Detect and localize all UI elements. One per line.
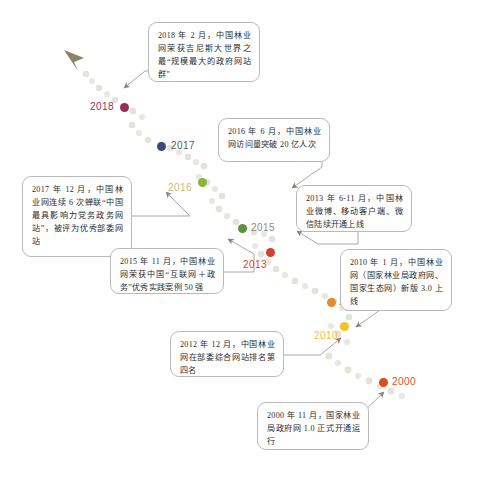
year-label-2017: 2017 (171, 140, 195, 151)
node-dot-2017[interactable] (157, 142, 166, 151)
callout-2015[interactable]: 2015 年 11 月，中国林业网荣获中国“互联网＋政务”优秀实践案例 50 强 (110, 248, 224, 294)
year-label-2016: 2016 (168, 182, 192, 193)
year-label-2015: 2015 (251, 222, 275, 233)
callout-2012[interactable]: 2012 年 12 月，中国林业网在部委综合网站排名第四名 (170, 331, 284, 377)
year-label-2018: 2018 (90, 101, 114, 112)
timeline-infographic: 2018 2017 2016 2015 2013 2012 2010 2000 … (0, 0, 492, 486)
node-dot-2015[interactable] (238, 224, 247, 233)
year-label-2000: 2000 (392, 376, 416, 387)
timeline-start-arrow-icon (64, 50, 84, 71)
year-label-2010: 2010 (314, 330, 338, 341)
node-dot-2012[interactable] (327, 298, 336, 307)
year-label-2013: 2013 (243, 259, 267, 270)
connector-2013 (297, 230, 358, 244)
callout-2016[interactable]: 2016 年 6 月，中国林业网访问量突破 20 亿人次 (218, 118, 330, 162)
connector-2017 (130, 192, 190, 216)
node-dot-2018[interactable] (120, 103, 129, 112)
callout-2000[interactable]: 2000 年 11 月，国家林业局政府网 1.0 正式开通运行 (257, 402, 369, 450)
node-dot-2010[interactable] (340, 322, 349, 331)
callout-2013[interactable]: 2013 年 6-11 月，中国林业微博、移动客户端、微信陆续开通上线 (296, 185, 412, 232)
callout-2010[interactable]: 2010 年 1 月，中国林业网（国家林业局政府网、国家生态网）新版 3.0 上… (340, 249, 452, 311)
callout-2017[interactable]: 2017 年 12 月，中国林业网连续 6 次蝉联“中国最具影响力党务政务网站”… (22, 176, 132, 257)
callout-2018[interactable]: 2018 年 2 月，中国林业网荣获吉尼斯大世界之最“规模最大的政府网站群” (148, 22, 260, 82)
node-dot-2000[interactable] (379, 378, 388, 387)
node-dot-2013[interactable] (266, 248, 275, 257)
node-dot-2016[interactable] (198, 178, 207, 187)
